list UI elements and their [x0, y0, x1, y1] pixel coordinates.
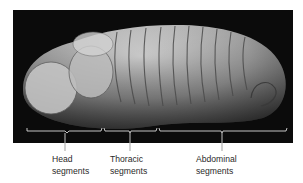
- micrograph-panel: [13, 10, 293, 143]
- segment-brackets: [27, 128, 287, 133]
- label-line: segments: [196, 165, 237, 177]
- label-line: Thoracic: [110, 153, 147, 165]
- embryo-image: [13, 10, 293, 143]
- head-segments-label: Head segments: [52, 153, 89, 177]
- abdominal-segments-label: Abdominal segments: [196, 153, 237, 177]
- thoracic-segments-label: Thoracic segments: [110, 153, 147, 177]
- label-line: segments: [52, 165, 89, 177]
- label-line: Head: [52, 153, 89, 165]
- label-line: segments: [110, 165, 147, 177]
- label-line: Abdominal: [196, 153, 237, 165]
